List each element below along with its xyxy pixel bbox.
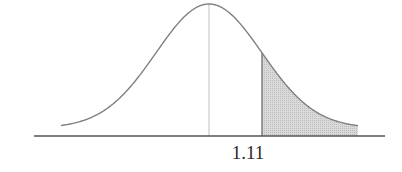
marked-value-label: 1.11	[232, 143, 265, 162]
normal-distribution-diagram	[0, 0, 402, 172]
